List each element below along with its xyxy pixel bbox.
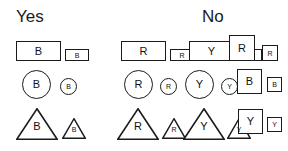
shape-label: Y bbox=[247, 116, 254, 127]
shape-circles-no-5: B bbox=[267, 77, 282, 92]
shape-label: R bbox=[134, 121, 142, 132]
shape-circles-no-2: Y bbox=[185, 70, 214, 99]
shape-label: Y bbox=[208, 46, 215, 57]
shape-rectangles-no-2: Y bbox=[189, 41, 234, 61]
shape-triangles-no-0: R bbox=[117, 108, 159, 140]
shape-triangles-yes-1: B bbox=[62, 118, 86, 139]
shape-circles-no-4: B bbox=[237, 69, 262, 94]
shape-label: R bbox=[166, 83, 171, 90]
shape-circles-no-0: R bbox=[124, 70, 153, 99]
column-header-no: No bbox=[202, 8, 224, 25]
shape-triangles-no-4: Y bbox=[238, 109, 263, 134]
shape-label: B bbox=[33, 121, 40, 132]
shape-label: B bbox=[75, 52, 80, 59]
shape-label: B bbox=[72, 126, 77, 133]
shape-rectangles-yes-1: B bbox=[65, 49, 89, 61]
shape-label: B bbox=[33, 79, 40, 90]
shape-label: B bbox=[272, 81, 277, 88]
column-header-yes: Yes bbox=[16, 8, 44, 25]
shape-label: R bbox=[140, 46, 148, 57]
shape-label: R bbox=[179, 52, 184, 59]
shape-label: Y bbox=[200, 121, 207, 132]
shape-triangles-no-2: Y bbox=[183, 108, 225, 140]
shape-circles-yes-0: B bbox=[22, 70, 51, 99]
shape-rectangles-yes-0: B bbox=[16, 41, 61, 61]
shape-label: Y bbox=[227, 83, 232, 90]
shape-label: R bbox=[135, 79, 143, 90]
shape-label: B bbox=[35, 46, 42, 57]
shape-circles-yes-1: B bbox=[60, 78, 77, 95]
shape-label: Y bbox=[272, 121, 277, 128]
shape-circles-no-1: R bbox=[160, 78, 177, 95]
shape-label: R bbox=[267, 50, 272, 57]
shape-label: R bbox=[171, 126, 176, 133]
shape-label: B bbox=[66, 83, 71, 90]
shape-circles-no-3: Y bbox=[221, 78, 238, 95]
shape-label: Y bbox=[237, 126, 242, 133]
shape-triangles-yes-0: B bbox=[16, 108, 58, 140]
shape-label: R bbox=[238, 43, 246, 54]
concept-learning-figure: Yes No BBRRYYRRBBRRYYBBBBRRYYYY bbox=[0, 0, 288, 151]
shape-label: B bbox=[246, 76, 253, 87]
shape-rectangles-no-5: R bbox=[262, 45, 278, 61]
shape-rectangles-no-4: R bbox=[229, 35, 255, 61]
shape-rectangles-no-0: R bbox=[121, 41, 166, 61]
shape-label: Y bbox=[196, 79, 203, 90]
shape-triangles-no-5: Y bbox=[267, 117, 282, 132]
